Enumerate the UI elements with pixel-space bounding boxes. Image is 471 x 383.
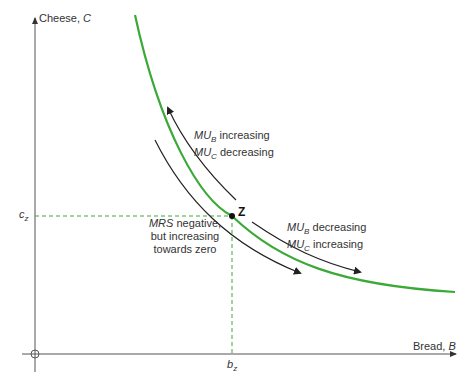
y-axis-variable: C xyxy=(83,12,91,24)
mu-var: MU xyxy=(194,146,211,158)
y-axis-label-text: Cheese, xyxy=(39,12,83,24)
x-axis-label: Bread, B xyxy=(413,340,456,353)
upper-annotation: MUB increasing MUC decreasing xyxy=(194,129,274,163)
lower-right-annotation: MUB decreasing MUC increasing xyxy=(287,221,366,255)
point-z-label: Z xyxy=(238,206,245,219)
x-axis-label-text: Bread, xyxy=(413,340,448,352)
annotation-text: negative, xyxy=(173,217,221,229)
y-axis-label: Cheese, C xyxy=(39,12,91,25)
indifference-curve-diagram: Cheese, C Bread, B cz bz Z MUB increasin… xyxy=(0,0,471,383)
bz-sub: z xyxy=(233,364,237,373)
annotation-text: decreasing xyxy=(309,221,366,233)
cz-sub: z xyxy=(25,214,29,223)
annotation-text: increasing xyxy=(310,238,363,250)
mu-var: MU xyxy=(194,129,211,141)
mrs-annotation: MRS negative, but increasing towards zer… xyxy=(145,217,225,256)
annotation-text: increasing xyxy=(216,129,269,141)
point-z xyxy=(229,213,235,219)
mrs-var: MRS xyxy=(149,217,173,229)
cz-label: cz xyxy=(19,208,29,225)
bz-label: bz xyxy=(227,358,237,375)
annotation-text: decreasing xyxy=(217,146,274,158)
x-axis-variable: B xyxy=(448,340,455,352)
mu-var: MU xyxy=(287,221,304,233)
diagram-canvas xyxy=(0,0,471,383)
annotation-text: but increasing xyxy=(145,230,225,243)
annotation-text: towards zero xyxy=(145,243,225,256)
mu-var: MU xyxy=(287,238,304,250)
